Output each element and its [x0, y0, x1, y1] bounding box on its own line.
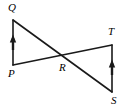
arrow-tick-qp-icon — [10, 35, 16, 51]
vertex-label-q: Q — [8, 2, 16, 13]
segment-qs — [13, 20, 112, 92]
vertex-label-p: P — [8, 68, 15, 79]
arrow-tick-ts-icon — [109, 60, 115, 76]
geometry-figure: Q P R T S — [0, 0, 125, 110]
vertex-label-s: S — [111, 95, 117, 106]
vertex-label-r: R — [59, 62, 66, 73]
vertex-label-t: T — [108, 26, 114, 37]
geometry-canvas — [0, 0, 125, 110]
